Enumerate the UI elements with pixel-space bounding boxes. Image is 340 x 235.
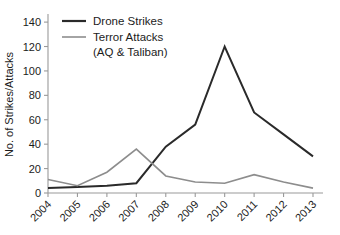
y-axis-tick-label: 120	[23, 41, 41, 53]
series-line-terror-attacks	[48, 149, 313, 188]
x-axis-tick-label: 2009	[175, 198, 201, 224]
y-axis-title: No. of Strikes/Attacks	[3, 51, 15, 157]
y-axis-tick-label: 140	[23, 16, 41, 28]
x-axis-tick-label: 2013	[293, 198, 319, 224]
legend-label-terror-attacks: Terror Attacks	[93, 31, 164, 43]
y-axis-tick-label: 80	[29, 89, 41, 101]
x-axis-tick-label: 2011	[234, 198, 259, 223]
y-axis-tick-label: 60	[29, 114, 41, 126]
x-axis-tick-label: 2005	[57, 198, 83, 224]
chart-canvas: 0204060801001201402004200520062007200820…	[0, 0, 340, 235]
legend-label-drone-strikes: Drone Strikes	[93, 15, 163, 27]
x-axis-tick-label: 2006	[87, 198, 113, 224]
legend-label-terror-attacks-sub: (AQ & Taliban)	[93, 46, 168, 58]
x-axis-tick-label: 2012	[263, 198, 289, 224]
y-axis-tick-label: 20	[29, 163, 41, 175]
x-axis-tick-label: 2010	[204, 198, 230, 224]
line-chart-figure: 0204060801001201402004200520062007200820…	[0, 0, 340, 235]
x-axis-tick-label: 2007	[116, 198, 142, 224]
x-axis-tick-label: 2004	[28, 198, 54, 224]
y-axis-tick-label: 0	[35, 187, 41, 199]
series-line-drone-strikes	[48, 47, 313, 189]
x-axis-tick-label: 2008	[145, 198, 171, 224]
y-axis-tick-label: 100	[23, 65, 41, 77]
y-axis-tick-label: 40	[29, 138, 41, 150]
